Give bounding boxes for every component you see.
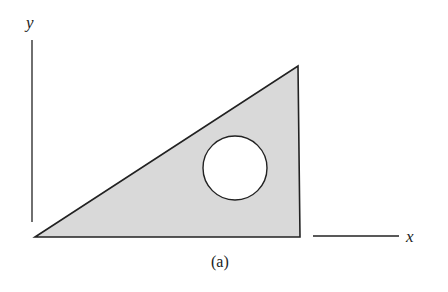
figure-caption: (a) [211, 254, 229, 270]
circular-hole [203, 136, 267, 200]
x-axis-label: x [406, 228, 414, 245]
diagram-canvas [0, 0, 448, 292]
y-axis-label: y [26, 14, 34, 31]
